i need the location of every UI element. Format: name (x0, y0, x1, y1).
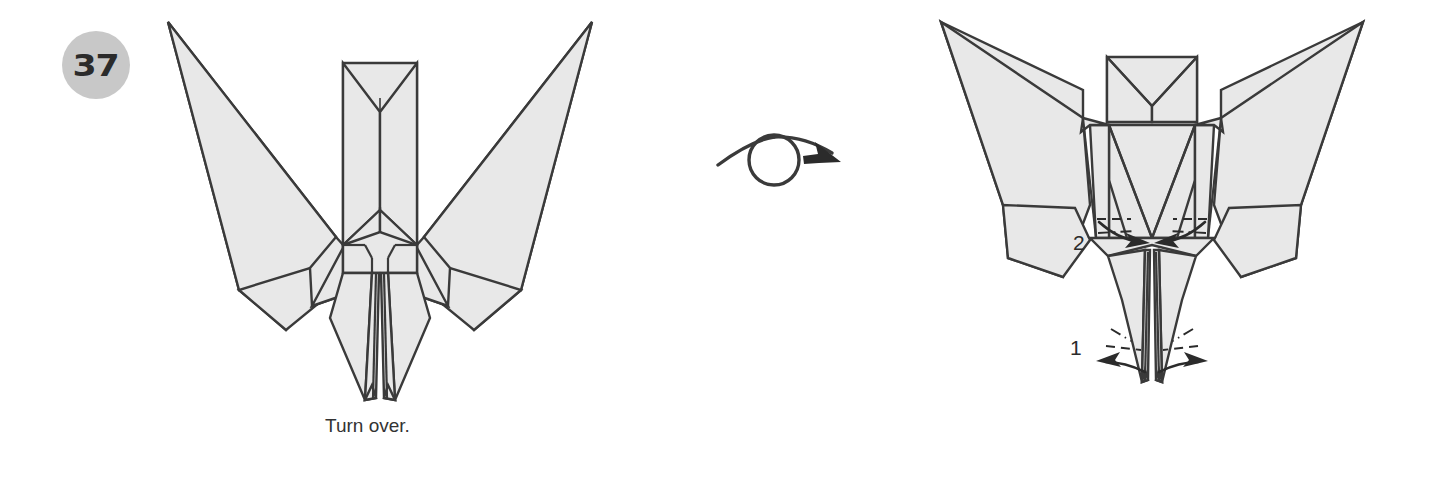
crimp-foldline-left-upper (1111, 329, 1131, 341)
right-wing-lower (1214, 205, 1301, 277)
step-panel-38: 38 (700, 0, 1445, 485)
chest-band (1090, 238, 1214, 256)
callout-label-1: 1 (1070, 336, 1082, 359)
crimp-arrow-right-head (1183, 352, 1208, 367)
crimp-arrow-left-head (1096, 352, 1121, 367)
origami-figure-step-38: 2 1 (0, 0, 1445, 485)
origami-diagram-page: 37 (0, 0, 1445, 485)
callout-label-2: 2 (1073, 231, 1085, 254)
crimp-foldline-right-upper (1173, 329, 1193, 341)
